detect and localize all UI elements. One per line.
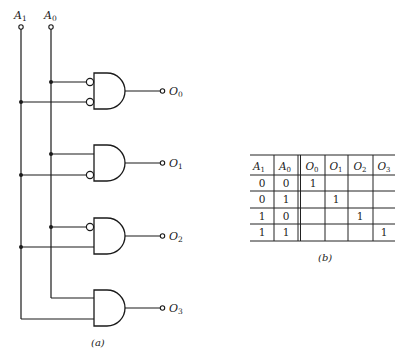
and-gate-o1 — [19, 145, 165, 181]
header-o0: O0 — [305, 160, 318, 174]
input-terminal-a0 — [49, 25, 53, 29]
table-row: 1 1 1 — [259, 226, 388, 238]
junction-dot — [49, 152, 53, 156]
svg-text:0: 0 — [283, 177, 290, 189]
output-label-o3: O3 — [169, 302, 183, 316]
table-row: 0 0 1 — [259, 177, 317, 189]
svg-text:0: 0 — [259, 193, 266, 205]
caption-a: (a) — [91, 337, 105, 348]
svg-text:1: 1 — [310, 177, 317, 189]
output-terminal — [160, 306, 164, 310]
svg-text:1: 1 — [333, 193, 340, 205]
and-gate-o2 — [19, 218, 165, 254]
and-gate-o0 — [19, 73, 165, 109]
svg-text:0: 0 — [283, 210, 290, 222]
header-o2: O2 — [353, 160, 366, 174]
table-row: 0 1 1 — [259, 193, 340, 205]
svg-text:1: 1 — [259, 226, 266, 238]
svg-text:1: 1 — [283, 226, 290, 238]
output-label-o2: O2 — [169, 230, 183, 244]
decoder-figure: A1 A0 O0 O1 O2 — [0, 0, 410, 358]
header-o3: O3 — [377, 160, 390, 174]
truth-table: A1 A0 O0 O1 O2 O3 0 0 1 0 1 1 1 0 — [250, 155, 395, 241]
input-terminal-a1 — [19, 25, 23, 29]
junction-dot — [19, 245, 23, 249]
inverter-bubble-icon — [86, 171, 93, 178]
output-label-o1: O1 — [169, 157, 183, 171]
and-gate-o3 — [21, 290, 165, 326]
header-a1: A1 — [252, 160, 265, 174]
input-label-a1: A1 — [13, 9, 27, 23]
inverter-bubble-icon — [86, 223, 93, 230]
output-terminal — [160, 161, 164, 165]
inverter-bubble-icon — [86, 98, 93, 105]
output-terminal — [160, 89, 164, 93]
junction-dot — [49, 80, 53, 84]
svg-text:1: 1 — [283, 193, 290, 205]
caption-b: (b) — [318, 252, 332, 263]
input-label-a0: A0 — [43, 9, 57, 23]
svg-text:1: 1 — [357, 210, 364, 222]
junction-dot — [19, 100, 23, 104]
junction-dot — [49, 225, 53, 229]
output-terminal — [160, 234, 164, 238]
output-label-o0: O0 — [169, 85, 183, 99]
svg-text:0: 0 — [259, 177, 266, 189]
svg-text:1: 1 — [381, 226, 388, 238]
svg-text:1: 1 — [259, 210, 266, 222]
junction-dot — [19, 173, 23, 177]
inverter-bubble-icon — [86, 78, 93, 85]
header-a0: A0 — [278, 160, 291, 174]
header-o1: O1 — [329, 160, 342, 174]
